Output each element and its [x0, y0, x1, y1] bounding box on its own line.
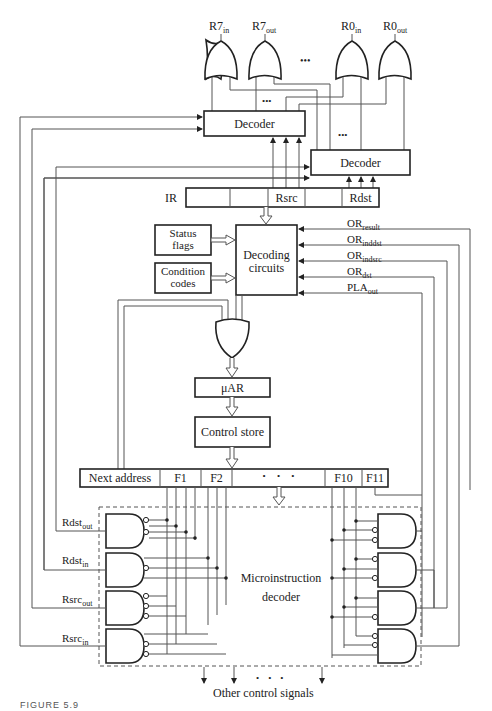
label-r0-in: R0in — [341, 20, 361, 35]
decoder-lower-label: Decoder — [311, 157, 410, 169]
label-pla-out: PLAout — [347, 282, 378, 296]
ir-field-rdst: Rdst — [342, 192, 379, 204]
label-rdst-in: Rdstin — [62, 555, 88, 569]
uar-label: μAR — [195, 382, 270, 394]
other-signals-ellipsis: • • • — [256, 674, 283, 683]
figure-caption: FIGURE 5.9 — [20, 700, 79, 710]
field-f1: F1 — [160, 472, 201, 484]
label-rdst-out: Rdstout — [62, 517, 92, 531]
decoder-upper-ellipsis: ••• — [262, 97, 271, 106]
label-or-dst: ORdst — [347, 266, 372, 280]
decoder-upper-label: Decoder — [204, 118, 305, 130]
label-or-result: ORresult — [347, 218, 380, 232]
label-rsrc-in: Rsrcin — [62, 633, 88, 647]
field-f11: F11 — [362, 472, 388, 484]
label-r0-out: R0out — [383, 20, 407, 35]
microinstruction-decoder-label: Microinstructiondecoder — [236, 572, 326, 603]
field-ellipsis: • • • — [232, 472, 325, 481]
label-rsrc-out: Rsrcout — [62, 594, 92, 608]
field-f2: F2 — [201, 472, 232, 484]
ir-field-rsrc: Rsrc — [268, 192, 305, 204]
condition-codes-label: Conditioncodes — [155, 266, 211, 289]
right-and-gates — [378, 514, 416, 663]
decoding-circuits-label: Decodingcircuits — [236, 249, 297, 274]
left-and-gates — [106, 514, 144, 663]
label-r7-in: R7in — [209, 20, 229, 35]
gates-ellipsis: ••• — [300, 56, 311, 66]
field-next-address: Next address — [80, 472, 160, 484]
decoder-lower-ellipsis: ••• — [338, 131, 347, 140]
label-or-indsrc: ORindsrc — [347, 250, 382, 264]
control-store-label: Control store — [195, 426, 270, 438]
field-f10: F10 — [325, 472, 362, 484]
merge-or-gate — [216, 319, 249, 358]
label-r7-out: R7out — [252, 20, 276, 35]
status-flags-label: Statusflags — [155, 228, 211, 251]
ir-label: IR — [165, 192, 177, 204]
label-or-inddst: ORinddst — [347, 234, 382, 248]
other-control-signals-label: Other control signals — [213, 687, 314, 699]
